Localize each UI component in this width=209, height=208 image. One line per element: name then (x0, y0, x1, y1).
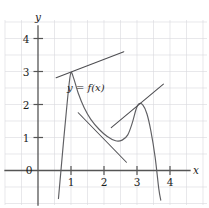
plot-area: 0 1 2 3 4 1 2 3 4 x y y = f(x) (0, 0, 209, 208)
curve-label-y-equals-f-of-x: y = f(x) (66, 82, 105, 93)
x-tick-label-4: 4 (167, 176, 174, 188)
x-tick-label-1: 1 (68, 176, 75, 188)
y-tick-label-1: 1 (23, 132, 30, 144)
x-axis-label: x (193, 164, 199, 176)
y-tick-label-3: 3 (23, 66, 30, 78)
y-tick-label-2: 2 (23, 99, 30, 111)
y-tick-label-4: 4 (23, 33, 30, 45)
tangent-at-peak-1-line (56, 52, 124, 78)
tick-labels: 0 1 2 3 4 1 2 3 4 (23, 33, 174, 189)
graph-figure: 0 1 2 3 4 1 2 3 4 x y y = f(x) (0, 0, 209, 208)
origin-label: 0 (26, 164, 33, 176)
x-tick-label-2: 2 (101, 176, 108, 188)
x-tick-label-3: 3 (134, 176, 141, 188)
y-axis-label: y (34, 11, 42, 23)
